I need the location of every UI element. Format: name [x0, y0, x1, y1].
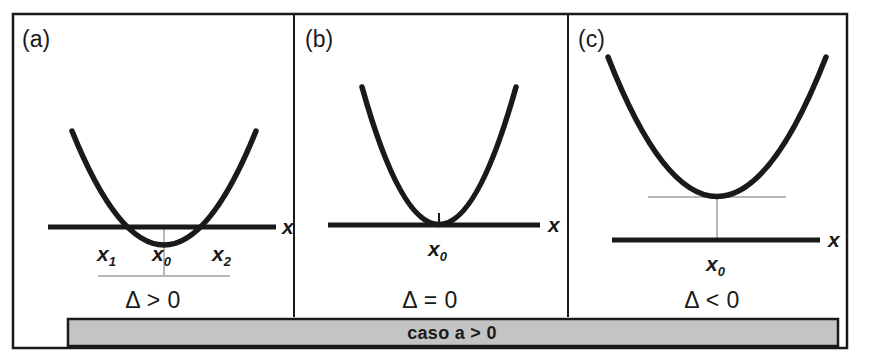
- panel-a-axis-label: x: [281, 215, 295, 238]
- panel-b-label: (b): [305, 26, 333, 52]
- panel-b-caption: Δ = 0: [402, 287, 458, 313]
- case-banner-label: caso a > 0: [407, 323, 497, 343]
- panel-a-label: (a): [22, 26, 50, 52]
- panel-b-axis-label: x: [547, 213, 561, 236]
- panel-a-caption: Δ > 0: [125, 287, 181, 313]
- panel-c-caption: Δ < 0: [684, 287, 740, 313]
- panel-c-label: (c): [578, 26, 605, 52]
- quadratic-cases-figure: (a) x x1 x0 x2 Δ > 0 (b) x: [0, 0, 870, 362]
- panel-c-axis-label: x: [827, 228, 841, 251]
